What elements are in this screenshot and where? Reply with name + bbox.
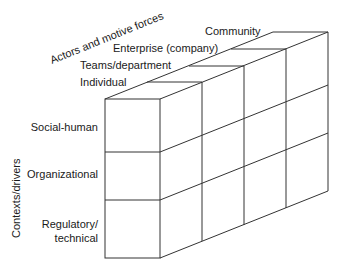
context-label-technical: technical	[55, 232, 98, 244]
context-label-organizational: Organizational	[27, 168, 98, 180]
actor-label-individual: Individual	[80, 76, 126, 88]
context-label-regulatory: Regulatory/	[42, 218, 99, 230]
front-face	[105, 99, 160, 258]
actor-label-enterprise: Enterprise (company)	[113, 42, 218, 54]
depth-axis-title: Actors and motive forces	[48, 9, 165, 66]
vertical-axis-title: Contexts/drivers	[10, 158, 22, 238]
actor-label-teams: Teams/department	[80, 59, 171, 71]
context-label-social-human: Social-human	[31, 121, 98, 133]
actor-label-community: Community	[205, 25, 261, 37]
cube-diagram: Actors and motive forces Community Enter…	[0, 0, 342, 271]
